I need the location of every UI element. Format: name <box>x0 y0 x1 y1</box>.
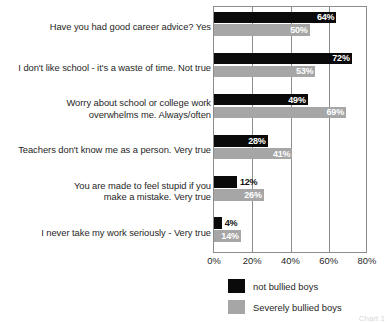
bar-not-bullied: 28% <box>214 135 268 147</box>
chart-row: I never take my work seriously - Very tr… <box>0 212 387 253</box>
x-axis: 0%20%40%60%80% <box>213 255 367 269</box>
bar-value-label: 72% <box>332 53 351 63</box>
bar-group: 49%69% <box>214 88 387 129</box>
chart-row: I don't like school - it's a waste of ti… <box>0 47 387 88</box>
chart-rows: Have you had good career advice? Yes64%5… <box>0 6 387 253</box>
category-label: I don't like school - it's a waste of ti… <box>3 47 211 88</box>
category-label: Worry about school or college workoverwh… <box>3 88 211 129</box>
bar-severely-bullied: 14% <box>214 230 241 242</box>
x-axis-tick: 0% <box>207 255 221 266</box>
bar-group: 64%50% <box>214 6 387 47</box>
bar-not-bullied: 72% <box>214 53 352 65</box>
chart-legend: not bullied boysSeverely bullied boys <box>228 277 378 319</box>
bar-not-bullied: 12% <box>214 176 237 188</box>
category-label-line: Worry about school or college work <box>66 97 211 109</box>
bar-value-label: 64% <box>317 12 336 22</box>
legend-swatch <box>228 300 245 314</box>
bar-group: 28%41% <box>214 130 387 171</box>
bar-severely-bullied: 69% <box>214 107 346 119</box>
bar-value-label: 53% <box>296 66 315 76</box>
bar-value-label: 4% <box>222 218 238 228</box>
category-label-line: overwhelms me. Always/often <box>89 109 211 121</box>
legend-label: not bullied boys <box>253 281 318 292</box>
bar-not-bullied: 4% <box>214 217 222 229</box>
corner-caption: Chart 1 <box>359 314 385 323</box>
bar-value-label: 41% <box>273 149 292 159</box>
category-label-line: Have you had good career advice? Yes <box>50 21 211 33</box>
chart-row: Worry about school or college workoverwh… <box>0 88 387 129</box>
x-axis-tick: 60% <box>319 255 338 266</box>
category-label-line: I don't like school - it's a waste of ti… <box>18 62 211 74</box>
bar-value-label: 26% <box>244 190 263 200</box>
bar-group: 12%26% <box>214 171 387 212</box>
x-axis-tick: 40% <box>281 255 300 266</box>
bar-not-bullied: 49% <box>214 94 308 106</box>
bar-severely-bullied: 26% <box>214 189 264 201</box>
legend-label: Severely bullied boys <box>253 302 342 313</box>
bar-group: 72%53% <box>214 47 387 88</box>
bar-group: 4%14% <box>214 212 387 253</box>
bar-chart: Have you had good career advice? Yes64%5… <box>0 0 387 323</box>
bar-value-label: 28% <box>248 136 267 146</box>
chart-row: You are made to feel stupid if youmake a… <box>0 171 387 212</box>
bar-not-bullied: 64% <box>214 12 336 24</box>
chart-row: Have you had good career advice? Yes64%5… <box>0 6 387 47</box>
category-label-line: make a mistake. Very true <box>104 191 211 203</box>
bar-severely-bullied: 53% <box>214 66 315 78</box>
category-label: Have you had good career advice? Yes <box>3 6 211 47</box>
bar-value-label: 12% <box>237 177 257 187</box>
category-label: Teachers don't know me as a person. Very… <box>3 130 211 171</box>
category-label: I never take my work seriously - Very tr… <box>3 212 211 253</box>
legend-swatch <box>228 279 245 293</box>
x-axis-tick: 20% <box>243 255 262 266</box>
bar-value-label: 49% <box>288 95 307 105</box>
bar-value-label: 50% <box>290 25 309 35</box>
category-label-line: I never take my work seriously - Very tr… <box>41 227 211 239</box>
category-label-line: Teachers don't know me as a person. Very… <box>18 144 211 156</box>
bar-value-label: 69% <box>327 107 346 117</box>
chart-row: Teachers don't know me as a person. Very… <box>0 130 387 171</box>
legend-item: Severely bullied boys <box>228 298 378 316</box>
x-axis-tick: 80% <box>358 255 377 266</box>
bar-severely-bullied: 50% <box>214 24 310 36</box>
category-label-line: You are made to feel stupid if you <box>74 180 211 192</box>
bar-severely-bullied: 41% <box>214 148 292 160</box>
bar-value-label: 14% <box>221 231 240 241</box>
legend-item: not bullied boys <box>228 277 378 295</box>
category-label: You are made to feel stupid if youmake a… <box>3 171 211 212</box>
